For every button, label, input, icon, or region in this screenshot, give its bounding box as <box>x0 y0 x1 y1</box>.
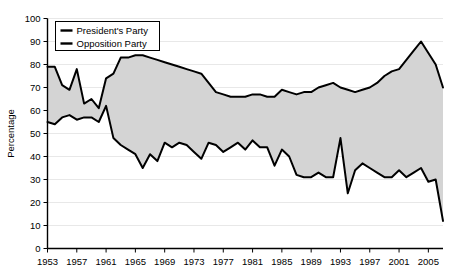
x-tick-label-1973: 1973 <box>183 256 204 267</box>
y-axis-ticks-group: 0102030405060708090100 <box>25 13 48 254</box>
y-tick-label-100: 100 <box>25 13 41 24</box>
y-tick-label-20: 20 <box>30 197 41 208</box>
legend-label-president-s-party[interactable]: President's Party <box>77 25 149 36</box>
x-tick-label-1961: 1961 <box>96 256 117 267</box>
x-tick-label-1985: 1985 <box>271 256 292 267</box>
x-tick-label-2001: 2001 <box>388 256 409 267</box>
x-tick-label-2005: 2005 <box>418 256 439 267</box>
y-tick-label-70: 70 <box>30 82 41 93</box>
line-chart: 0102030405060708090100 19531957196119651… <box>0 0 451 280</box>
x-axis-ticks-group: 1953195719611965196919731977198119851989… <box>37 249 439 267</box>
x-tick-label-1969: 1969 <box>154 256 175 267</box>
legend[interactable]: President's PartyOpposition Party <box>56 22 160 51</box>
chart-root: 0102030405060708090100 19531957196119651… <box>0 0 451 280</box>
x-tick-label-1981: 1981 <box>242 256 263 267</box>
y-tick-label-40: 40 <box>30 151 41 162</box>
y-tick-label-60: 60 <box>30 105 41 116</box>
fill-band-group <box>48 42 444 221</box>
y-tick-label-50: 50 <box>30 128 41 139</box>
fill-band-between-series <box>48 42 444 221</box>
x-tick-label-1965: 1965 <box>125 256 146 267</box>
legend-label-opposition-party[interactable]: Opposition Party <box>77 38 147 49</box>
y-tick-label-30: 30 <box>30 174 41 185</box>
x-tick-label-1989: 1989 <box>301 256 322 267</box>
y-tick-label-90: 90 <box>30 36 41 47</box>
y-tick-label-10: 10 <box>30 220 41 231</box>
y-axis-title: Percentage <box>5 109 16 158</box>
x-tick-label-1977: 1977 <box>213 256 234 267</box>
x-tick-label-1997: 1997 <box>359 256 380 267</box>
y-tick-label-80: 80 <box>30 59 41 70</box>
y-axis-title-group: Percentage <box>5 109 16 158</box>
x-tick-label-1953: 1953 <box>37 256 58 267</box>
x-tick-label-1957: 1957 <box>66 256 87 267</box>
x-tick-label-1993: 1993 <box>330 256 351 267</box>
y-tick-label-0: 0 <box>35 243 40 254</box>
